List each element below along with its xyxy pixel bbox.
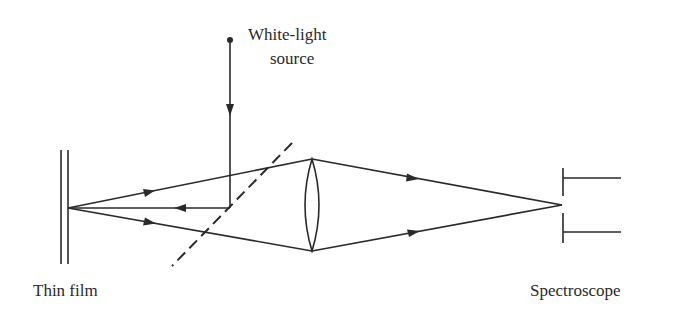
arrow-right-icon bbox=[406, 174, 419, 182]
spectroscope-label: Spectroscope bbox=[530, 281, 621, 300]
source-label-line1: White-light bbox=[248, 25, 327, 44]
thin-film-label: Thin film bbox=[33, 281, 98, 300]
arrow-right-icon bbox=[407, 230, 420, 238]
ray-lower-to-spectroscope bbox=[312, 205, 562, 251]
optics-diagram: White-light source Thin film Spectroscop… bbox=[0, 0, 687, 309]
beam-splitter bbox=[172, 143, 292, 266]
arrow-left-icon bbox=[174, 204, 186, 212]
arrow-down-icon bbox=[226, 104, 234, 116]
arrow-right-icon bbox=[143, 218, 156, 226]
converging-lens bbox=[305, 159, 319, 251]
ray-upper-to-spectroscope bbox=[312, 159, 562, 205]
ray-lower-to-lens bbox=[68, 208, 312, 251]
ray-upper-to-lens bbox=[68, 159, 312, 208]
source-label-line2: source bbox=[270, 49, 314, 68]
